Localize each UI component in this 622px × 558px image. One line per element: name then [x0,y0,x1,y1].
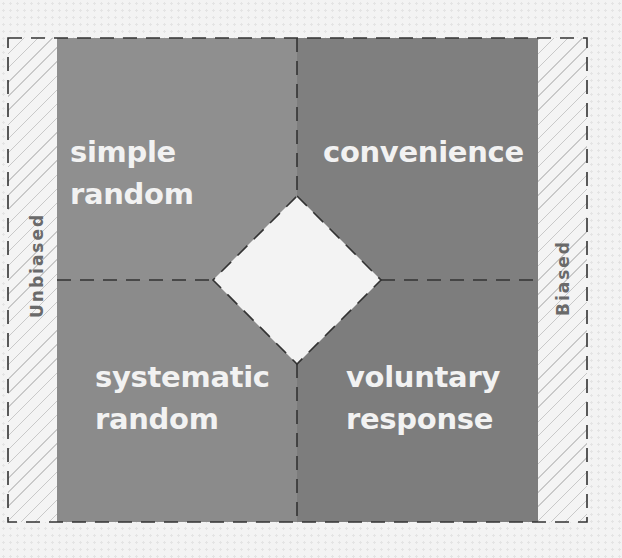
quadrant-systematic-random: systematic random [57,280,297,522]
quadrant-label-convenience: convenience [323,131,524,173]
quadrant-label-simple-random: simple random [70,131,297,215]
quadrant-label-voluntary-response: voluntary response [346,356,500,440]
quadrant-simple-random: simple random [57,38,297,280]
quadrant-label-systematic-random: systematic random [95,356,270,440]
sampling-methods-diagram: simple random convenience systematic ran… [8,38,587,522]
biased-axis-label: Biased [553,238,573,318]
unbiased-axis-label: Unbiased [27,238,47,318]
quadrant-convenience: convenience [297,38,538,280]
quadrant-voluntary-response: voluntary response [297,280,538,522]
